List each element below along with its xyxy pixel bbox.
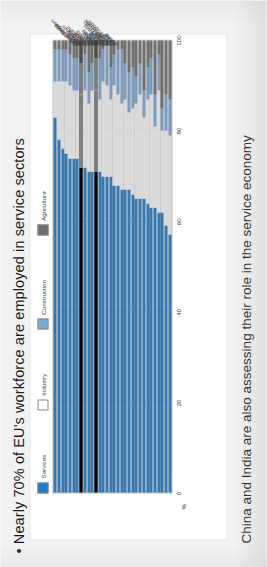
legend-label: Services <box>39 454 46 478</box>
bar-segment-industry <box>120 103 123 189</box>
bar-segment-construction <box>112 54 115 86</box>
bar-segment-construction <box>153 94 156 126</box>
stacked-bar-plot <box>52 40 172 493</box>
bar-segment-agriculture <box>72 40 75 58</box>
bar-segment-construction <box>157 54 160 90</box>
bar-segment-industry <box>116 94 119 184</box>
bar-row[interactable] <box>109 40 112 492</box>
bar-segment-agriculture <box>57 40 60 49</box>
bar-segment-agriculture <box>64 40 67 49</box>
bar-row[interactable] <box>75 40 78 492</box>
bar-segment-agriculture <box>149 40 152 58</box>
bar-row[interactable] <box>164 40 167 492</box>
value-axis-ticks: 020406080100 <box>174 40 186 493</box>
bar-row[interactable] <box>138 40 141 492</box>
bar-segment-construction <box>57 49 60 81</box>
bar-row[interactable] <box>120 40 123 492</box>
bar-segment-agriculture <box>68 40 71 54</box>
bar-segment-services <box>112 185 115 492</box>
bar-segment-construction <box>116 49 119 94</box>
bar-row[interactable] <box>134 40 137 492</box>
bar-segment-industry <box>98 99 101 171</box>
bar-segment-industry <box>83 90 86 167</box>
bar-row[interactable] <box>157 40 160 492</box>
bar-row[interactable] <box>142 40 145 492</box>
bar-segment-agriculture <box>168 40 171 99</box>
bar-row[interactable] <box>79 40 82 492</box>
slide-footer-text: China and India are also assessing their… <box>238 3 253 543</box>
legend-item[interactable]: Agriculture <box>37 191 48 236</box>
bar-row[interactable] <box>57 40 60 492</box>
bar-row[interactable] <box>53 40 56 492</box>
bar-row[interactable] <box>90 40 93 492</box>
bar-segment-construction <box>146 67 149 99</box>
bar-segment-services <box>146 203 149 492</box>
bar-segment-construction <box>149 58 152 94</box>
bar-segment-services <box>116 185 119 492</box>
bar-row[interactable] <box>123 40 126 492</box>
bar-segment-agriculture <box>87 40 90 72</box>
bar-row[interactable] <box>101 40 104 492</box>
bar-segment-agriculture <box>116 40 119 49</box>
bar-segment-industry <box>72 90 75 158</box>
bar-row[interactable] <box>72 40 75 492</box>
bar-segment-agriculture <box>138 40 141 63</box>
bar-row[interactable] <box>112 40 115 492</box>
axis-unit-label: % <box>179 503 186 509</box>
bar-row[interactable] <box>168 40 171 492</box>
presentation-slide: • Nearly 70% of EU's workforce are emplo… <box>0 0 266 567</box>
bar-segment-construction <box>94 58 97 90</box>
bar-segment-services <box>75 158 78 492</box>
bar-row[interactable] <box>160 40 163 492</box>
bar-segment-industry <box>127 112 130 189</box>
bar-row[interactable] <box>153 40 156 492</box>
chart-legend: ServicesIndustryConstructionAgriculture <box>35 191 49 493</box>
bar-segment-services <box>149 207 152 492</box>
bar-segment-industry <box>75 90 78 158</box>
bar-segment-construction <box>61 49 64 81</box>
bar-row[interactable] <box>127 40 130 492</box>
bar-row[interactable] <box>131 40 134 492</box>
bar-segment-construction <box>127 72 130 113</box>
bar-row[interactable] <box>149 40 152 492</box>
bar-segment-agriculture <box>160 40 163 108</box>
bar-row[interactable] <box>94 40 97 492</box>
bar-segment-services <box>120 189 123 492</box>
bar-row[interactable] <box>83 40 86 492</box>
bar-segment-industry <box>79 94 82 166</box>
bar-segment-agriculture <box>90 40 93 63</box>
bar-segment-industry <box>101 81 104 176</box>
legend-swatch-icon <box>37 318 48 329</box>
bar-segment-agriculture <box>105 40 108 45</box>
bar-segment-industry <box>68 85 71 157</box>
bar-row[interactable] <box>105 40 108 492</box>
bar-segment-construction <box>98 58 101 99</box>
bar-segment-construction <box>120 49 123 103</box>
bar-segment-agriculture <box>75 40 78 58</box>
bar-segment-agriculture <box>53 40 56 49</box>
bar-segment-services <box>164 225 167 492</box>
bar-segment-industry <box>146 99 149 203</box>
bar-segment-construction <box>109 67 112 99</box>
rotated-slide-frame: • Nearly 70% of EU's workforce are emplo… <box>0 0 266 567</box>
bar-segment-services <box>72 158 75 492</box>
bar-row[interactable] <box>98 40 101 492</box>
bar-row[interactable] <box>64 40 67 492</box>
bar-segment-services <box>98 171 101 492</box>
legend-item[interactable]: Services <box>37 454 48 493</box>
bar-segment-services <box>61 148 64 492</box>
bar-row[interactable] <box>61 40 64 492</box>
legend-item[interactable]: Industry <box>37 373 48 410</box>
axis-tick-label: 40 <box>174 308 181 315</box>
bar-segment-agriculture <box>101 40 104 49</box>
bar-segment-agriculture <box>94 40 97 58</box>
bar-row[interactable] <box>68 40 71 492</box>
bar-row[interactable] <box>87 40 90 492</box>
legend-item[interactable]: Construction <box>37 280 48 330</box>
bar-segment-agriculture <box>79 40 82 63</box>
bar-row[interactable] <box>146 40 149 492</box>
bar-segment-industry <box>105 85 108 175</box>
bar-row[interactable] <box>116 40 119 492</box>
legend-swatch-icon <box>37 482 48 493</box>
bar-segment-industry <box>94 90 97 171</box>
